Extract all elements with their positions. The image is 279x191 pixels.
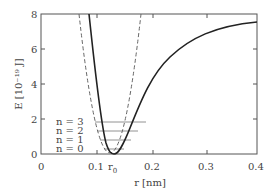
x-tick-label: 0.4 bbox=[248, 161, 264, 172]
level-label-n0: n = 0 bbox=[56, 143, 84, 154]
y-tick-label: 2 bbox=[31, 114, 37, 125]
x-tick-label: 0.2 bbox=[144, 161, 160, 172]
r0-label: r0 bbox=[108, 161, 117, 175]
x-tick-label: 0 bbox=[38, 161, 44, 172]
y-tick-label: 8 bbox=[31, 9, 37, 20]
y-axis-title: E [10⁻¹⁹ J] bbox=[13, 58, 24, 110]
y-tick-label: 4 bbox=[31, 79, 37, 90]
y-tick-label: 0 bbox=[31, 149, 37, 160]
y-tick-label: 6 bbox=[31, 44, 37, 55]
x-tick-label: 0.1 bbox=[88, 161, 104, 172]
harmonic-curve bbox=[79, 14, 141, 153]
chart: 0 2 4 6 8 0 0.1 0.2 0.3 0.4 r0 r [nm] E … bbox=[0, 0, 279, 191]
x-tick-label: 0.3 bbox=[198, 161, 214, 172]
x-ticks bbox=[97, 14, 207, 154]
x-axis-title: r [nm] bbox=[134, 177, 166, 188]
morse-curve bbox=[89, 14, 257, 154]
